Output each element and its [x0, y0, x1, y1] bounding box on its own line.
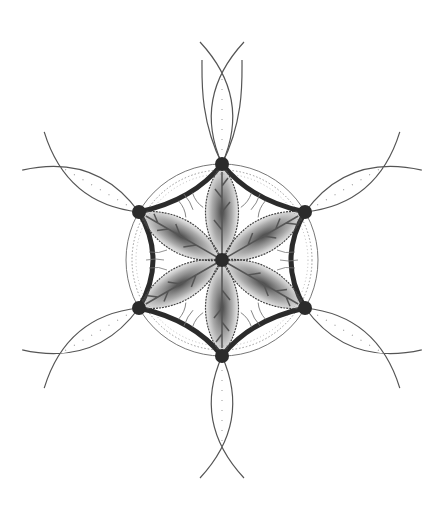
mandala-drawing — [0, 0, 448, 524]
center-node — [215, 253, 229, 267]
